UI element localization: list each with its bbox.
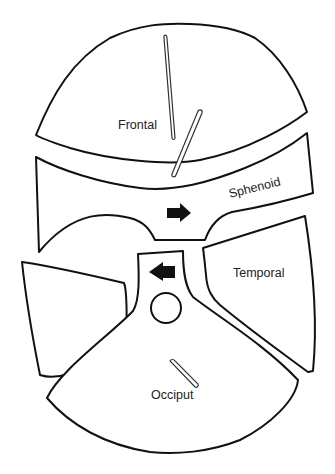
label-occiput: Occiput [151,388,194,402]
label-temporal: Temporal [233,266,284,280]
label-frontal: Frontal [118,118,157,132]
foramen-circle [151,293,181,323]
cranial-diagram: Frontal Sphenoid Temporal Occiput [0,0,335,474]
